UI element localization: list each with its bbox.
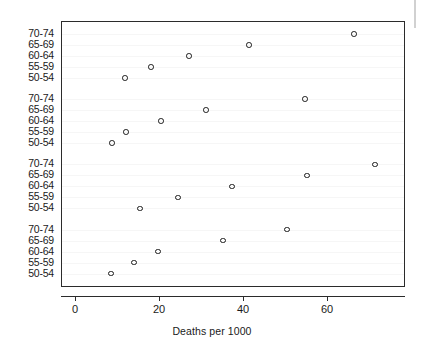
y-axis-tick-label: 70-74 [28,158,54,169]
scan-artifact-band [62,56,404,57]
scan-edge-artifact [414,0,416,28]
data-point [372,162,378,168]
scan-artifact-band [62,175,404,176]
data-point [175,195,181,201]
data-point [302,96,308,102]
data-point [108,271,114,277]
data-point [155,249,161,255]
data-point [351,31,357,37]
plot-panel [61,21,405,287]
data-point [123,129,129,135]
y-axis-tick-label: 65-69 [28,234,54,245]
dotplot-figure: 70-7465-6960-6455-5950-5470-7465-6960-64… [0,0,424,354]
scan-artifact-band [62,110,404,111]
x-axis-tick-label: 40 [237,303,249,315]
y-axis-tick-label: 70-74 [28,28,54,39]
data-point [246,42,252,48]
x-axis-tick-label: 20 [153,303,165,315]
y-axis-labels: 70-7465-6960-6455-5950-5470-7465-6960-64… [0,0,61,354]
scan-artifact-band [62,241,404,242]
scan-artifact-band [62,164,404,165]
x-axis-tick [75,296,76,301]
scan-artifact-band [62,208,404,209]
scan-artifact-band [62,230,404,231]
scan-artifact-band [62,45,404,46]
y-axis-tick-label: 55-59 [28,256,54,267]
data-point [304,173,310,179]
data-point [148,64,154,70]
x-axis-tick-label: 0 [72,303,78,315]
scan-artifact-band [62,99,404,100]
y-axis-tick-label: 50-54 [28,72,54,83]
y-axis-tick-label: 65-69 [28,104,54,115]
y-axis-tick-label: 50-54 [28,202,54,213]
x-axis-title: Deaths per 1000 [0,325,424,337]
scan-artifact-band [62,121,404,122]
data-point [284,227,290,233]
scan-artifact-band [62,252,404,253]
scan-artifact-band [62,67,404,68]
y-axis-tick-label: 70-74 [28,93,54,104]
data-point [158,118,164,124]
x-axis-line [61,296,405,297]
y-axis-tick-label: 70-74 [28,223,54,234]
x-axis-tick-label: 60 [321,303,333,315]
data-point [122,75,128,81]
scan-artifact-band [62,197,404,198]
data-point [186,53,192,59]
data-point [131,260,137,266]
data-point [229,184,235,190]
x-axis-tick [243,296,244,301]
x-axis-tick [159,296,160,301]
y-axis-tick-label: 65-69 [28,169,54,180]
scan-artifact-band [62,78,404,79]
y-axis-tick-label: 60-64 [28,115,54,126]
scan-artifact-band [62,132,404,133]
y-axis-tick-label: 50-54 [28,137,54,148]
y-axis-tick-label: 65-69 [28,39,54,50]
x-axis-tick [327,296,328,301]
data-point [220,238,226,244]
y-axis-tick-label: 50-54 [28,267,54,278]
scan-artifact-band [62,263,404,264]
y-axis-tick-label: 60-64 [28,245,54,256]
data-point [109,140,115,146]
y-axis-tick-label: 60-64 [28,50,54,61]
y-axis-tick-label: 55-59 [28,61,54,72]
y-axis-tick-label: 55-59 [28,126,54,137]
y-axis-tick-label: 60-64 [28,180,54,191]
y-axis-tick-label: 55-59 [28,191,54,202]
data-point [203,107,209,113]
data-point [137,206,143,212]
